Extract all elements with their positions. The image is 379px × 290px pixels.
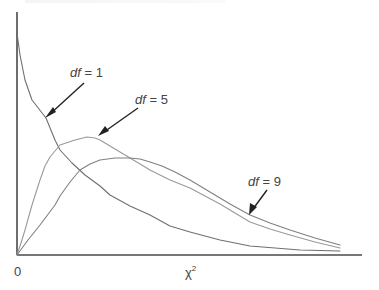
arrow-df-9-icon [249,190,267,215]
x-axis-label-sup: 2 [192,264,196,273]
chi-square-chart [0,0,379,290]
arrow-df-1-icon [45,83,84,118]
x-origin-label: 0 [14,265,21,278]
label-df-5: df = 5 [135,93,168,106]
label-df-1-var: df [70,65,81,80]
arrow-df-5-icon [98,108,138,136]
x-axis-label-base: χ [185,265,192,280]
label-df-9-var: df [248,174,259,189]
label-df-9-value: = 9 [259,174,281,189]
label-df-5-var: df [135,92,146,107]
label-df-1: df = 1 [70,66,103,79]
label-df-5-value: = 5 [146,92,168,107]
curve-df-5 [17,137,340,255]
curve-df-1 [17,33,340,251]
label-df-1-value: = 1 [81,65,103,80]
x-axis-label: χ2 [185,265,196,279]
curve-df-9 [17,158,340,255]
label-df-9: df = 9 [248,175,281,188]
